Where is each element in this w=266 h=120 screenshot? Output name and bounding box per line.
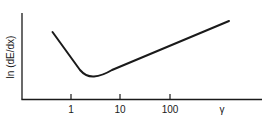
x-axis-label-gamma: γ [220,104,225,115]
y-axis-label: ln (dE/dx) [5,36,16,79]
x-tick-label-100: 100 [162,104,179,115]
chart: 1 10 100 γ ln (dE/dx) [0,0,266,120]
energy-loss-curve [53,21,230,77]
x-tick-label-1: 1 [68,104,74,115]
x-tick-label-10: 10 [114,104,126,115]
